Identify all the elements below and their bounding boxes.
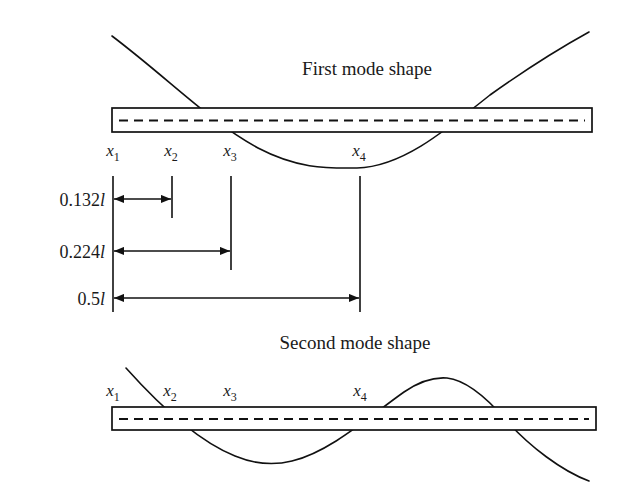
second-mode-title: Second mode shape xyxy=(280,332,431,353)
first-mode-title: First mode shape xyxy=(302,58,432,79)
second-mode-group: Second mode shape x1 x2 x3 x4 xyxy=(105,332,596,481)
first-mode-node-label-x2: x2 xyxy=(163,141,178,164)
mode-shape-figure: First mode shape x1 x2 x3 x4 0.132l 0.22… xyxy=(0,0,630,502)
second-mode-node-label-x4: x4 xyxy=(352,381,367,404)
first-mode-node-label-x3: x3 xyxy=(222,141,237,164)
first-mode-curve xyxy=(112,32,589,168)
second-mode-node-label-x1: x1 xyxy=(105,381,120,404)
first-mode-node-label-x1: x1 xyxy=(105,141,120,164)
second-mode-node-label-x2: x2 xyxy=(162,381,177,404)
dimension-label-0132l: 0.132l xyxy=(59,190,105,210)
second-mode-node-label-x3: x3 xyxy=(222,381,237,404)
first-mode-group: First mode shape x1 x2 x3 x4 xyxy=(105,32,592,168)
dimension-block: 0.132l 0.224l 0.5l xyxy=(59,176,360,312)
dimension-label-0224l: 0.224l xyxy=(59,242,105,262)
first-mode-node-label-x4: x4 xyxy=(351,141,366,164)
dimension-label-05l: 0.5l xyxy=(77,289,105,309)
